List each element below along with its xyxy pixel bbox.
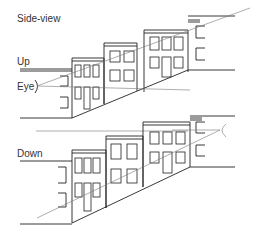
panel-down-label: Down bbox=[17, 148, 43, 159]
eye-icon-lower bbox=[222, 124, 226, 137]
building-3-lower bbox=[143, 122, 190, 187]
partial-window bbox=[196, 122, 205, 133]
partial-window bbox=[196, 26, 205, 38]
building-1 bbox=[72, 58, 104, 118]
partial-window bbox=[60, 97, 68, 108]
partial-window bbox=[196, 48, 205, 60]
upward-sightline bbox=[37, 8, 250, 86]
panel-up: Up Eye bbox=[17, 8, 250, 118]
panel-up-label: Up bbox=[17, 56, 30, 67]
partial-window bbox=[60, 76, 68, 86]
building-2 bbox=[104, 43, 137, 104]
eye-label: Eye bbox=[17, 81, 35, 92]
diagram-title: Side-view bbox=[17, 13, 61, 24]
building-1-lower bbox=[72, 150, 106, 223]
building-3 bbox=[144, 30, 188, 92]
horizontal-sightline bbox=[37, 86, 190, 90]
downward-sightline bbox=[37, 130, 220, 218]
panel-down: Down bbox=[17, 116, 235, 224]
partial-window bbox=[196, 145, 205, 156]
eye-icon bbox=[35, 80, 38, 93]
side-view-diagram: Side-view Up Eye bbox=[0, 0, 255, 237]
partial-window bbox=[58, 167, 66, 183]
building-2-lower bbox=[106, 136, 143, 208]
